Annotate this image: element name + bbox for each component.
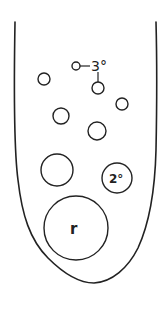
tertiary-child-circle [92, 82, 104, 94]
secondary-label: 2° [109, 172, 123, 186]
outer-outline [14, 22, 156, 283]
small-circle-1 [38, 73, 50, 85]
medium-circle-1 [53, 108, 69, 124]
diagram-canvas: 3° 2° r [0, 0, 162, 312]
large-circle-1 [41, 154, 73, 186]
cell-diagram: 3° 2° r [0, 0, 162, 312]
tertiary-label: 3° [91, 58, 107, 74]
primary-label: r [70, 220, 78, 238]
tertiary-bud-circle [72, 62, 80, 70]
medium-circle-2 [88, 122, 106, 140]
small-circle-2 [116, 98, 128, 110]
